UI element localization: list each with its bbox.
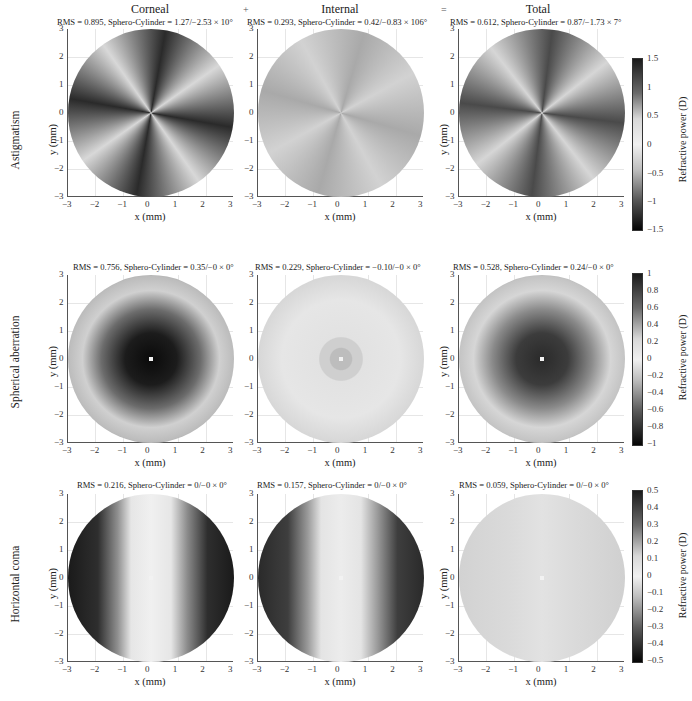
y-tick-label: −1	[244, 135, 254, 145]
x-axis-label: x (mm)	[516, 676, 566, 687]
pupil-center-marker	[149, 576, 153, 580]
x-tick-label: −2	[90, 664, 100, 674]
row-label-astigmatism: Astigmatism	[9, 85, 21, 195]
y-tick-label: −2	[54, 628, 64, 638]
y-tick-label: 3	[59, 488, 64, 498]
x-tick-label: 2	[591, 664, 596, 674]
y-tick-label: −3	[54, 656, 64, 666]
y-tick-label: 1	[59, 325, 64, 335]
y-tick-label: 3	[249, 488, 254, 498]
y-tick-label: 0	[249, 572, 254, 582]
colorbar-tick: 0	[647, 570, 652, 580]
y-tick-label: 0	[59, 107, 64, 117]
x-tick-label: −2	[280, 199, 290, 209]
panel-subtitle: RMS = 0.293, Sphero-Cylinder = 0.42/−0.8…	[247, 17, 427, 27]
y-tick-label: 0	[450, 353, 455, 363]
y-tick-label: 1	[59, 79, 64, 89]
y-tick-label: 3	[450, 23, 455, 33]
x-tick-label: 3	[619, 664, 624, 674]
equals-operator: =	[441, 4, 447, 15]
colorbar-tick: 0.5	[647, 110, 658, 120]
plot-area-internal-spherical	[257, 275, 423, 443]
y-tick-label: 2	[59, 297, 64, 307]
y-tick-label: −2	[445, 163, 455, 173]
x-tick-label: 1	[363, 664, 368, 674]
panel-subtitle: RMS = 0.229, Sphero-Cylinder = −0.10/−0 …	[255, 262, 421, 272]
y-tick-label: 3	[59, 23, 64, 33]
heatmap-disk	[68, 29, 234, 197]
y-tick-label: −1	[445, 600, 455, 610]
x-tick-label: −2	[481, 664, 491, 674]
x-tick-label: 2	[200, 664, 205, 674]
y-tick-label: 3	[249, 23, 254, 33]
x-tick-label: 3	[228, 445, 233, 455]
x-tick-label: 1	[173, 445, 178, 455]
x-tick-label: −2	[90, 445, 100, 455]
y-tick-label: −1	[244, 381, 254, 391]
x-tick-label: 1	[363, 199, 368, 209]
column-title-internal: Internal	[310, 2, 370, 17]
y-tick-label: 3	[450, 269, 455, 279]
colorbar-tick: 0.2	[647, 536, 658, 546]
colorbar-tick: 0.6	[647, 302, 658, 312]
y-tick-label: −3	[54, 191, 64, 201]
y-tick-label: 2	[450, 516, 455, 526]
colorbar-tick: −0.1	[647, 587, 663, 597]
x-tick-label: 0	[536, 199, 541, 209]
panel-subtitle: RMS = 0.059, Sphero-Cylinder = 0/−0 × 0°	[459, 480, 609, 490]
y-tick-label: 0	[450, 107, 455, 117]
x-tick-label: 0	[145, 664, 150, 674]
y-tick-label: −1	[244, 600, 254, 610]
y-tick-label: −2	[244, 409, 254, 419]
pupil-center-marker	[339, 576, 343, 580]
x-tick-label: 1	[363, 445, 368, 455]
y-tick-label: 2	[249, 516, 254, 526]
x-tick-label: 3	[228, 199, 233, 209]
x-tick-label: −1	[508, 199, 518, 209]
plot-area-corneal-spherical	[67, 275, 233, 443]
y-tick-label: 1	[450, 544, 455, 554]
x-tick-label: 0	[145, 199, 150, 209]
x-tick-label: 2	[200, 199, 205, 209]
y-tick-label: 3	[450, 488, 455, 498]
x-tick-label: −1	[508, 445, 518, 455]
x-tick-label: 3	[418, 199, 423, 209]
colorbar-tick: −0.3	[647, 621, 663, 631]
colorbar-tick: 0.2	[647, 336, 658, 346]
x-tick-label: 2	[390, 445, 395, 455]
y-tick-label: 0	[59, 353, 64, 363]
colorbar-astigmatism	[632, 58, 643, 231]
x-tick-label: 3	[619, 199, 624, 209]
colorbar-tick: −1	[647, 196, 657, 206]
y-tick-label: −3	[244, 191, 254, 201]
y-tick-label: −2	[54, 163, 64, 173]
colorbar-tick: 0.4	[647, 319, 658, 329]
x-tick-label: 3	[418, 664, 423, 674]
x-axis-label: x (mm)	[125, 676, 175, 687]
x-tick-label: 1	[564, 199, 569, 209]
colorbar-tick: −0.2	[647, 370, 663, 380]
x-axis-label: x (mm)	[315, 676, 365, 687]
colorbar-tick: 0.1	[647, 553, 658, 563]
y-tick-label: 1	[249, 544, 254, 554]
y-tick-label: 0	[59, 572, 64, 582]
y-tick-label: 1	[450, 325, 455, 335]
x-tick-label: −1	[117, 445, 127, 455]
y-tick-label: −3	[54, 437, 64, 447]
colorbar-tick: −1	[647, 438, 657, 448]
y-tick-label: −1	[54, 135, 64, 145]
x-axis-label: x (mm)	[315, 211, 365, 222]
x-tick-label: 3	[228, 664, 233, 674]
x-tick-label: 2	[390, 664, 395, 674]
colorbar-coma	[632, 490, 643, 663]
y-tick-label: −1	[445, 381, 455, 391]
y-tick-label: 2	[450, 51, 455, 61]
x-tick-label: −1	[117, 199, 127, 209]
y-tick-label: 0	[249, 353, 254, 363]
y-tick-label: −2	[244, 163, 254, 173]
colorbar-tick: −0.6	[647, 404, 663, 414]
colorbar-tick: 0.3	[647, 519, 658, 529]
plot-area-internal-astigmatism	[257, 29, 423, 197]
x-tick-label: 1	[173, 664, 178, 674]
colorbar-tick: −0.2	[647, 604, 663, 614]
